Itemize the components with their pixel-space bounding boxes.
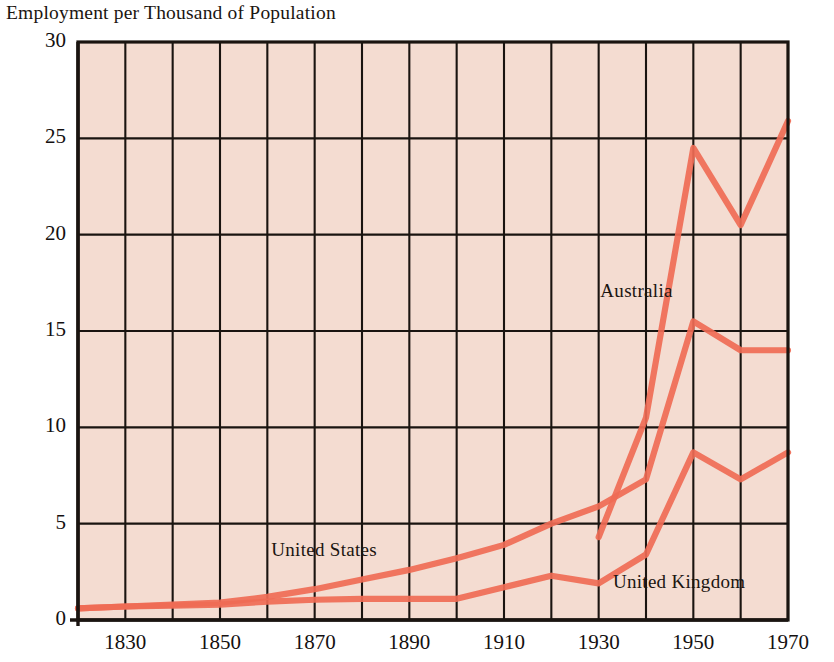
series-annotation-united-states: United States <box>271 539 377 561</box>
y-tick-label: 10 <box>20 413 66 438</box>
x-tick-label: 1930 <box>559 630 639 655</box>
y-tick-label: 20 <box>20 221 66 246</box>
y-tick-label: 5 <box>20 510 66 535</box>
x-tick-label: 1890 <box>369 630 449 655</box>
series-annotation-united-kingdom: United Kingdom <box>613 571 745 593</box>
x-tick-label: 1970 <box>748 630 828 655</box>
chart-container: Employment per Thousand of Population 05… <box>0 0 834 662</box>
y-tick-label: 0 <box>20 606 66 631</box>
plot-area <box>0 0 834 662</box>
x-tick-label: 1870 <box>275 630 355 655</box>
y-tick-label: 25 <box>20 124 66 149</box>
x-tick-label: 1850 <box>180 630 260 655</box>
x-tick-label: 1950 <box>653 630 733 655</box>
x-tick-label: 1830 <box>85 630 165 655</box>
y-tick-label: 15 <box>20 317 66 342</box>
y-tick-label: 30 <box>20 28 66 53</box>
series-annotation-australia: Australia <box>600 280 672 302</box>
x-tick-label: 1910 <box>464 630 544 655</box>
